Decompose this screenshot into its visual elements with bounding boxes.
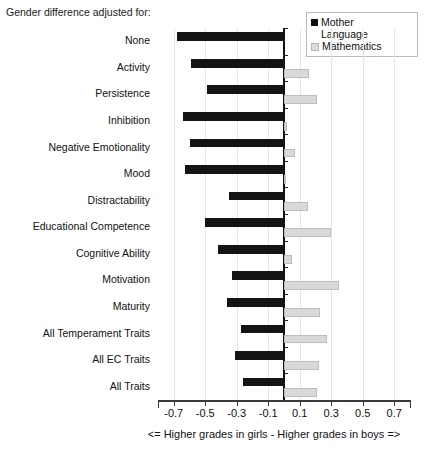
x-axis-end-tick: [158, 400, 159, 408]
bar-mother-language: [232, 271, 284, 280]
bar-mathematics: [284, 281, 339, 290]
y-tick: [283, 241, 288, 242]
gridline: [394, 28, 395, 400]
gridline: [237, 28, 238, 400]
x-axis-title: <= Higher grades in girls - Higher grade…: [120, 428, 428, 440]
bar-mother-language: [177, 32, 284, 41]
bar-mother-language: [235, 351, 284, 360]
x-tick: [300, 400, 301, 406]
y-axis-label: Inhibition: [0, 114, 150, 126]
y-axis-label: All Temperament Traits: [0, 327, 150, 339]
x-axis-line: [158, 400, 410, 402]
bar-mathematics: [284, 175, 286, 184]
bar-mathematics: [284, 202, 308, 211]
y-axis-label: Activity: [0, 61, 150, 73]
x-tick: [331, 400, 332, 406]
gridline: [331, 28, 332, 400]
gridline: [300, 28, 301, 400]
y-tick: [283, 108, 288, 109]
bar-mathematics: [284, 308, 320, 317]
bar-mathematics: [284, 95, 317, 104]
bar-mathematics: [284, 361, 319, 370]
bar-mathematics: [284, 255, 292, 264]
bar-mother-language: [227, 298, 284, 307]
y-tick: [283, 320, 288, 321]
chart-figure: Gender difference adjusted for: Mother L…: [0, 0, 428, 461]
bar-mother-language: [229, 192, 284, 201]
bar-mathematics: [284, 122, 287, 131]
y-tick: [283, 267, 288, 268]
gridline: [363, 28, 364, 400]
y-tick: [283, 134, 288, 135]
y-axis-label: Distractability: [0, 194, 150, 206]
legend-swatch-mother-language: [311, 19, 318, 26]
bar-mathematics: [284, 388, 317, 397]
y-tick: [283, 28, 288, 29]
chart-caption: Gender difference adjusted for:: [6, 6, 186, 19]
bar-mother-language: [190, 139, 285, 148]
x-tick: [205, 400, 206, 406]
y-axis-label: Persistence: [0, 87, 150, 99]
y-axis-label: All EC Traits: [0, 353, 150, 365]
x-tick: [237, 400, 238, 406]
gridline: [205, 28, 206, 400]
y-tick: [283, 55, 288, 56]
x-tick: [394, 400, 395, 406]
bar-mathematics: [284, 69, 309, 78]
y-axis-label: Negative Emotionality: [0, 141, 150, 153]
y-axis-label: Cognitive Ability: [0, 247, 150, 259]
bar-mother-language: [207, 85, 284, 94]
x-tick: [174, 400, 175, 406]
bar-mathematics: [284, 149, 295, 158]
bar-mathematics: [284, 228, 331, 237]
gridline: [174, 28, 175, 400]
bar-mother-language: [241, 325, 284, 334]
bar-mother-language: [243, 378, 284, 387]
y-tick: [283, 161, 288, 162]
bar-mother-language: [185, 165, 284, 174]
y-axis-label: Mood: [0, 167, 150, 179]
bar-mother-language: [205, 218, 284, 227]
x-tick: [268, 400, 269, 406]
x-axis-end-tick: [410, 400, 411, 408]
y-axis-label: Educational Competence: [0, 220, 150, 232]
y-tick: [283, 187, 288, 188]
bar-mother-language: [191, 59, 284, 68]
bar-mother-language: [218, 245, 284, 254]
gridline: [268, 28, 269, 400]
y-axis-label: None: [0, 34, 150, 46]
y-tick: [283, 294, 288, 295]
y-tick: [283, 81, 288, 82]
bar-mathematics: [284, 335, 327, 344]
y-tick: [283, 347, 288, 348]
bar-mother-language: [183, 112, 284, 121]
y-axis-label: Motivation: [0, 273, 150, 285]
y-tick: [283, 214, 288, 215]
y-axis-label: All Traits: [0, 380, 150, 392]
y-tick: [283, 373, 288, 374]
y-axis-label: Maturity: [0, 300, 150, 312]
x-tick: [363, 400, 364, 406]
x-tick-label: 0.7: [374, 407, 414, 419]
